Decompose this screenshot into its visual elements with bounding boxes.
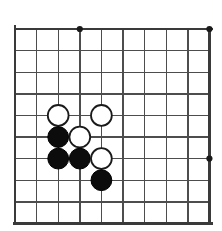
black-stone[interactable] bbox=[48, 148, 69, 169]
star-point-icon bbox=[77, 26, 83, 32]
black-stone[interactable] bbox=[91, 170, 112, 191]
white-stone[interactable] bbox=[48, 105, 69, 126]
black-stone[interactable] bbox=[48, 127, 69, 148]
white-stone[interactable] bbox=[91, 148, 112, 169]
star-point-icon bbox=[206, 26, 212, 32]
grid-lines bbox=[15, 29, 209, 223]
go-board-canvas[interactable] bbox=[0, 0, 222, 231]
white-stone[interactable] bbox=[91, 105, 112, 126]
go-board-figure bbox=[0, 0, 222, 231]
board-edges bbox=[13, 25, 213, 223]
white-stone[interactable] bbox=[69, 127, 90, 148]
black-stone[interactable] bbox=[69, 148, 90, 169]
star-point-icon bbox=[206, 156, 212, 162]
